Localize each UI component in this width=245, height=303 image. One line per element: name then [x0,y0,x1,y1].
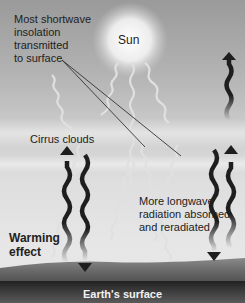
sun-label: Sun [118,34,139,47]
longwave-label: More longwave radiation absorbed and rer… [139,195,230,234]
warming-line: effect [9,245,60,259]
longwave-line: and reradiated [139,221,230,234]
cirrus-cloud-band-lower [0,155,245,173]
up-arrow-top-right [227,58,232,120]
insolation-line: transmitted [14,39,91,52]
ground-layer [0,258,245,283]
earth-surface-label: Earth's surface [0,288,245,300]
insolation-line: to surface [14,52,91,65]
longwave-line: More longwave [139,195,230,208]
insolation-line: Most shortwave [14,13,91,26]
warming-line: Warming [9,231,60,245]
longwave-line: radiation absorbed [139,208,230,221]
insolation-line: insolation [14,26,91,39]
up-arrow-left [64,161,70,263]
arrowhead-down-icon [207,252,221,261]
arrowhead-up-icon [222,52,236,60]
cirrus-clouds-label: Cirrus clouds [30,133,94,146]
warming-effect-label: Warming effect [9,231,60,259]
insolation-label: Most shortwave insolation transmitted to… [14,13,91,65]
down-arrow-left [82,155,88,261]
cirrus-warming-diagram: Sun Most shortwave insolation transmitte… [0,0,245,303]
